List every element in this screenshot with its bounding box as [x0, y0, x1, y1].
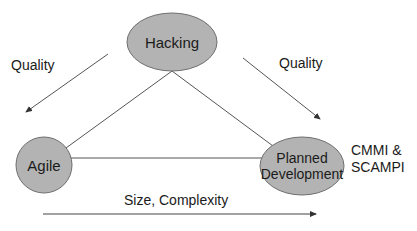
cmmi-label-line1: CMMI &	[351, 142, 402, 158]
node-planned-label-line2: Development	[261, 166, 344, 182]
quality-label-left: Quality	[11, 57, 55, 73]
node-planned-label-line1: Planned	[276, 150, 327, 166]
axis-label: Size, Complexity	[124, 192, 228, 208]
node-hacking-label: Hacking	[145, 34, 199, 51]
cmmi-label-line2: SCAMPI	[351, 159, 405, 175]
edge-hacking-planned	[172, 71, 273, 146]
node-agile: Agile	[16, 137, 72, 193]
diagram-canvas: Hacking Agile Planned Development Qualit…	[0, 0, 417, 231]
quality-label-right: Quality	[279, 55, 323, 71]
node-planned-development: Planned Development	[260, 137, 344, 195]
node-agile-label: Agile	[27, 157, 60, 174]
edge-hacking-agile	[66, 71, 172, 148]
node-hacking: Hacking	[127, 13, 217, 71]
